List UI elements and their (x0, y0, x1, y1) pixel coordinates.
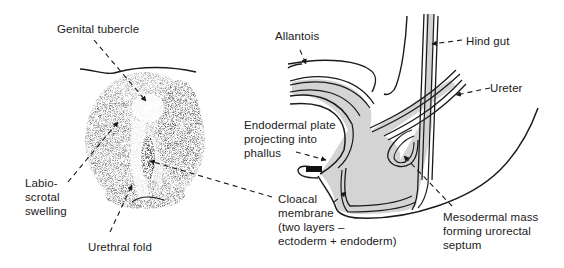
label-genital-tubercle: Genital tubercle (57, 22, 139, 36)
label-mesodermal-mass: Mesodermal mass forming urorectal septum (443, 210, 538, 252)
label-allantois: Allantois (275, 29, 319, 43)
label-cloacal-membrane: Cloacal membrane (two layers – ectoderm … (278, 192, 397, 248)
label-hind-gut: Hind gut (466, 34, 510, 48)
label-urethral-fold: Urethral fold (88, 240, 152, 254)
label-labioscrotal-swelling: Labio- scrotal swelling (25, 176, 67, 218)
label-endodermal-plate: Endodermal plate projecting into phallus (244, 118, 336, 160)
external-genitalia-illustration (80, 68, 205, 210)
embryology-diagram: Genital tubercle Labio- scrotal swelling… (0, 0, 564, 268)
label-ureter: Ureter (490, 81, 523, 95)
